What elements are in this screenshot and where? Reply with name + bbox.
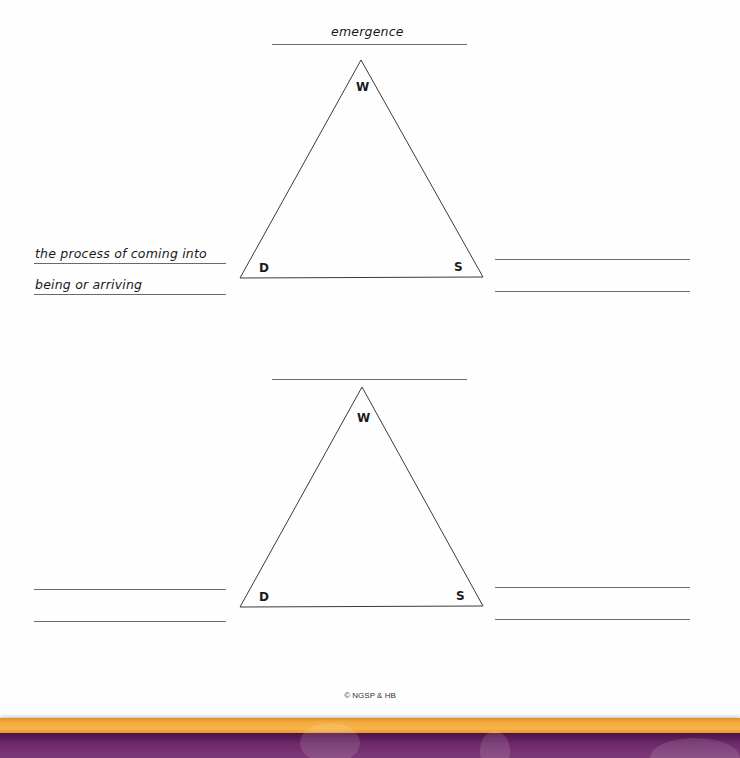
vertex-w-2: W — [357, 411, 370, 425]
triangle-shape-2 — [0, 0, 740, 640]
definition-line-3[interactable] — [34, 589, 226, 590]
definition-line-4[interactable] — [34, 621, 226, 622]
vertex-d-2: D — [259, 590, 269, 604]
decorative-orange-band — [0, 718, 740, 733]
vertex-s-2: S — [456, 589, 465, 603]
copyright-notice: © NGSP & HB — [0, 691, 740, 700]
sentence-line-4[interactable] — [495, 619, 690, 620]
worksheet-page: emergence W D S the process of coming in… — [0, 0, 740, 720]
decorative-purple-band — [0, 733, 740, 758]
sentence-line-3[interactable] — [495, 587, 690, 588]
